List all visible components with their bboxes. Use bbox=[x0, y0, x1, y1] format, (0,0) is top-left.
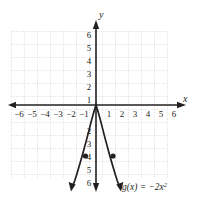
x-tick-1: 1 bbox=[107, 109, 112, 119]
x-axis-left-arrowhead bbox=[8, 102, 16, 108]
y-tick--3: 3 bbox=[87, 139, 92, 149]
y-tick-1: 1 bbox=[87, 95, 92, 105]
coordinate-plane-svg: x y −6 −5 −4 −3 −2 −1 1 2 3 4 5 6 6 5 4 … bbox=[0, 0, 205, 204]
x-tick--4: −4 bbox=[40, 109, 50, 119]
x-axis-label: x bbox=[182, 93, 188, 104]
function-label-exponent: 2 bbox=[164, 181, 168, 188]
x-tick--1: −1 bbox=[79, 109, 89, 119]
y-tick--5: 5 bbox=[87, 165, 92, 175]
x-tick-5: 5 bbox=[159, 109, 164, 119]
y-tick--6: 6 bbox=[87, 178, 92, 188]
graph-figure: x y −6 −5 −4 −3 −2 −1 1 2 3 4 5 6 6 5 4 … bbox=[0, 0, 205, 204]
function-label-text: g(x) = −2x bbox=[122, 182, 165, 193]
plotted-point-right bbox=[110, 153, 115, 158]
x-tick-2: 2 bbox=[120, 109, 125, 119]
x-tick-4: 4 bbox=[146, 109, 151, 119]
x-tick-3: 3 bbox=[133, 109, 138, 119]
y-tick-6: 6 bbox=[87, 30, 92, 40]
y-axis-bottom-arrowhead bbox=[93, 183, 99, 192]
function-label: g(x) = −2x2 bbox=[122, 181, 168, 194]
y-tick-2: 2 bbox=[87, 82, 92, 92]
plotted-point-left bbox=[83, 153, 88, 158]
y-tick-5: 5 bbox=[87, 43, 92, 53]
x-tick-6: 6 bbox=[172, 109, 177, 119]
y-axis-top-arrowhead bbox=[93, 20, 99, 29]
x-tick--3: −3 bbox=[53, 109, 63, 119]
x-tick--6: −6 bbox=[14, 109, 24, 119]
y-tick-3: 3 bbox=[87, 69, 92, 79]
y-axis-label: y bbox=[98, 9, 104, 20]
x-tick--5: −5 bbox=[27, 109, 37, 119]
y-tick-4: 4 bbox=[87, 56, 92, 66]
x-tick--2: −2 bbox=[66, 109, 76, 119]
